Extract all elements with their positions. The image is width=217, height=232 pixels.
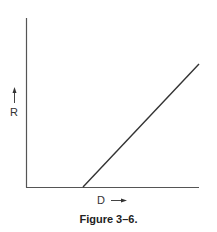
right-arrow-icon [111, 199, 127, 203]
x-axis-label: D [97, 195, 105, 206]
diagram-canvas [0, 0, 217, 232]
up-arrow-icon [13, 87, 17, 103]
y-axis-label: R [10, 107, 18, 118]
r-vs-d-line [83, 64, 199, 187]
figure-caption: Figure 3–6. [0, 213, 217, 225]
